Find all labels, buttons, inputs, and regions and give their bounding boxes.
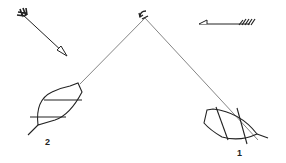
- boat-1: [204, 107, 268, 144]
- wind-arrow-icon: [17, 8, 67, 56]
- layline-lines: [80, 18, 258, 140]
- current-arrow-icon: [199, 19, 255, 25]
- boat-2: [28, 83, 82, 135]
- boat-1-label: 1: [237, 149, 242, 158]
- mark-icon: [139, 11, 148, 19]
- boat-2-label: 2: [45, 138, 50, 147]
- diagram-canvas: [0, 0, 286, 163]
